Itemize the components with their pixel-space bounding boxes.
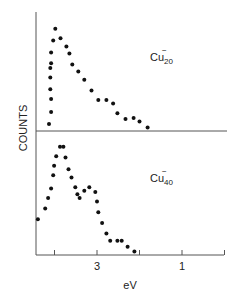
data-point [49,51,53,55]
data-point [82,189,86,193]
panel-label-cu40: Cu40− [150,167,174,187]
data-point [96,98,100,102]
y-axis-label: COUNTS [17,105,29,151]
data-point [52,164,56,168]
data-point [75,192,79,196]
data-point [138,120,142,124]
data-point [87,185,91,189]
data-point [48,75,52,79]
data-point [73,185,77,189]
photoelectron-spectra-chart: 3 1 eV COUNTS Cu20− Cu40− [0,0,242,299]
data-point [49,97,53,101]
data-point [51,173,55,177]
data-point [64,155,68,159]
data-point [46,196,50,200]
data-point [54,154,58,158]
data-point [49,110,53,114]
data-point [48,66,52,70]
data-point [49,186,53,190]
data-point [78,196,82,200]
data-point [47,122,51,126]
data-point [70,176,74,180]
data-point [82,78,86,82]
data-point [115,111,119,115]
x-tick-label-3: 3 [94,260,100,272]
data-point [93,190,97,194]
data-point [108,239,112,243]
data-point [48,87,52,91]
x-tick-label-1: 1 [179,260,185,272]
data-point [36,217,40,221]
data-point [67,167,71,171]
x-axis-label: eV [123,279,137,291]
cu20-data-points [47,27,150,130]
data-point [115,239,119,243]
data-point [59,36,63,40]
panel-label-cu20: Cu20− [150,46,174,66]
x-axis-ticks [55,250,225,255]
data-point [132,249,136,253]
data-point [96,210,100,214]
data-point [64,45,68,49]
data-point [70,62,74,66]
data-point [111,102,115,106]
data-point [90,89,94,93]
data-point [104,232,108,236]
data-point [132,116,136,120]
data-point [76,70,80,74]
data-point [61,145,65,149]
data-point [124,117,128,121]
data-point [51,39,55,43]
data-point [100,221,104,225]
data-point [120,239,124,243]
data-point [95,199,99,203]
data-point [53,27,57,31]
data-point [49,61,53,65]
cu40-data-points [36,145,136,254]
data-point [104,98,108,102]
data-point [43,207,47,211]
data-point [126,245,130,249]
data-point [67,52,71,56]
data-point [146,125,150,129]
